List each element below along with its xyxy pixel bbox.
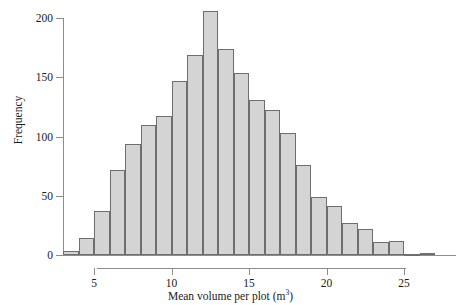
histogram-bar xyxy=(79,238,95,255)
x-axis-tick-mark xyxy=(249,268,250,275)
y-axis-tick-mark xyxy=(56,18,63,19)
histogram-figure: 050100150200 Frequency 510152025 Mean vo… xyxy=(0,0,461,305)
x-axis-tick-mark xyxy=(327,268,328,275)
x-axis-tick-label: 25 xyxy=(384,277,424,289)
histogram-bar xyxy=(203,11,219,255)
x-axis-tick-label: 15 xyxy=(229,277,269,289)
histogram-bar xyxy=(327,206,343,255)
x-axis-title-text: Mean volume per plot (m xyxy=(168,290,286,302)
y-axis-tick-mark xyxy=(56,137,63,138)
x-axis-tick-label: 5 xyxy=(74,277,114,289)
histogram-bar xyxy=(156,116,172,255)
histogram-bar xyxy=(389,241,405,255)
x-axis-title: Mean volume per plot (m3) xyxy=(0,290,461,302)
x-axis-tick-mark xyxy=(404,268,405,275)
histogram-bars xyxy=(0,0,461,305)
histogram-bar xyxy=(172,81,188,255)
histogram-bar xyxy=(234,73,250,255)
histogram-bar xyxy=(141,125,157,255)
x-axis-line xyxy=(97,268,406,269)
histogram-bar xyxy=(125,144,141,255)
x-axis-tick-mark xyxy=(172,268,173,275)
histogram-bar xyxy=(404,254,420,256)
y-axis-tick-mark xyxy=(56,77,63,78)
histogram-bar xyxy=(265,110,281,255)
histogram-bar xyxy=(280,133,296,255)
histogram-bar xyxy=(187,55,203,255)
histogram-bar xyxy=(296,165,312,255)
y-axis-tick-mark xyxy=(56,255,63,256)
x-axis-tick-label: 20 xyxy=(307,277,347,289)
histogram-bar xyxy=(94,211,110,255)
histogram-bar xyxy=(110,170,126,255)
histogram-bar xyxy=(249,100,265,255)
y-axis-tick-mark xyxy=(56,196,63,197)
histogram-bar xyxy=(420,253,436,255)
x-axis-tick-label: 10 xyxy=(152,277,192,289)
histogram-bar xyxy=(342,223,358,255)
histogram-bar xyxy=(373,242,389,255)
x-axis-title-suffix: ) xyxy=(289,290,293,302)
histogram-bar xyxy=(358,229,374,255)
histogram-bar xyxy=(218,49,234,255)
x-axis-tick-mark xyxy=(94,268,95,275)
histogram-bar xyxy=(63,251,79,255)
histogram-bar xyxy=(311,197,327,255)
